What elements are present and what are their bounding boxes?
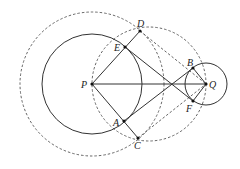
point-d	[138, 29, 141, 32]
label-q: Q	[209, 79, 217, 90]
geometry-diagram: P Q D E A C B F	[0, 0, 240, 169]
point-a	[122, 119, 125, 122]
label-f: F	[185, 103, 193, 114]
label-a: A	[112, 117, 120, 128]
line-a-to-b	[124, 68, 193, 121]
label-d: D	[136, 18, 145, 29]
label-e: E	[113, 42, 120, 53]
label-b: B	[187, 57, 193, 68]
dashed-line-cq	[138, 84, 206, 138]
line-pd	[92, 31, 140, 84]
point-q	[204, 82, 207, 85]
point-p	[90, 82, 93, 85]
label-c: C	[134, 140, 141, 151]
dashed-line-dq	[140, 31, 206, 84]
label-p: P	[80, 79, 87, 90]
line-e-to-f	[125, 47, 193, 101]
point-e	[123, 45, 126, 48]
